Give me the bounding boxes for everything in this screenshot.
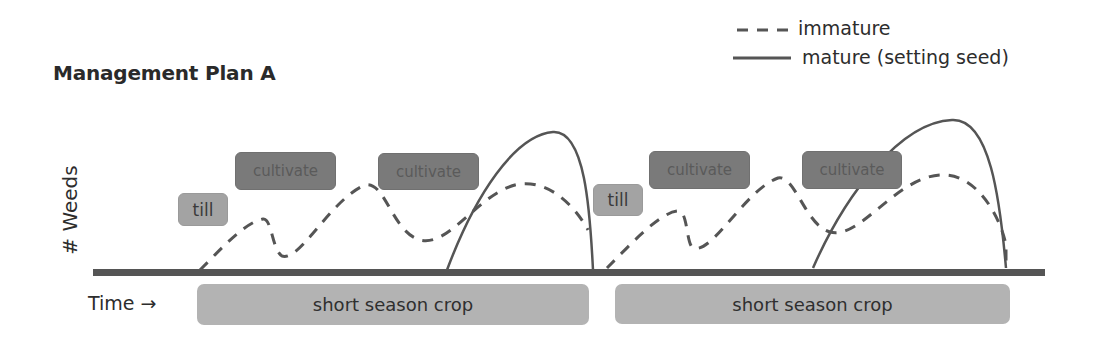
action-till-1: till <box>178 193 228 226</box>
x-axis-label: Time → <box>88 292 156 314</box>
action-cultivate-4: cultivate <box>802 151 902 189</box>
immature-curve-season-1 <box>200 184 588 270</box>
action-cultivate-1: cultivate <box>235 152 336 190</box>
action-cultivate-3: cultivate <box>649 151 750 189</box>
mature-curve-season-2 <box>813 120 1006 268</box>
time-axis-bar <box>93 269 1045 276</box>
action-cultivate-2: cultivate <box>378 153 479 190</box>
action-till-2: till <box>593 184 643 216</box>
crop-season-1: short season crop <box>197 284 589 325</box>
crop-season-2: short season crop <box>615 284 1010 324</box>
